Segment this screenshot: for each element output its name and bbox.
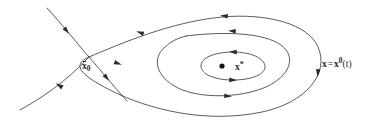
phase-portrait-canvas bbox=[0, 0, 371, 128]
transversal-trajectory-path bbox=[47, 8, 127, 101]
flow-arrow-lower-incoming-branch bbox=[55, 81, 64, 89]
flow-arrow-outer-orbit bbox=[114, 60, 123, 67]
fixed-point-label: x* bbox=[235, 61, 244, 73]
initial-point-subscript: 0 bbox=[87, 64, 91, 73]
flow-arrow-middle-orbit bbox=[224, 93, 232, 98]
orbit-group bbox=[80, 16, 321, 116]
outer-orbit-path bbox=[80, 16, 321, 116]
flow-arrow-inner-orbit bbox=[229, 50, 237, 55]
flow-direction-arrow-layer bbox=[55, 13, 321, 99]
equals-sign: = bbox=[327, 59, 334, 69]
flow-arrow-inner-orbit bbox=[229, 78, 237, 83]
trajectory-group bbox=[20, 8, 127, 110]
flow-arrow-outer-orbit bbox=[136, 29, 145, 36]
fixed-point-dot bbox=[219, 63, 224, 68]
solution-curve-label: x=x0(t) bbox=[322, 57, 352, 70]
initial-point-symbol: x bbox=[82, 62, 87, 72]
fixed-point-superscript: * bbox=[240, 60, 244, 69]
flow-arrow-outer-orbit bbox=[315, 69, 320, 77]
flow-arrow-middle-orbit bbox=[228, 28, 236, 33]
fixed-point-group bbox=[219, 63, 224, 68]
solution-rhs-argument: (t) bbox=[343, 59, 352, 69]
flow-arrow-outer-orbit bbox=[220, 13, 228, 18]
initial-point-label: x0 bbox=[82, 62, 91, 73]
phase-portrait-figure: x0 x* x=x0(t) bbox=[0, 0, 371, 128]
lower-incoming-branch-path bbox=[20, 57, 89, 110]
inner-orbit-path bbox=[201, 52, 265, 80]
